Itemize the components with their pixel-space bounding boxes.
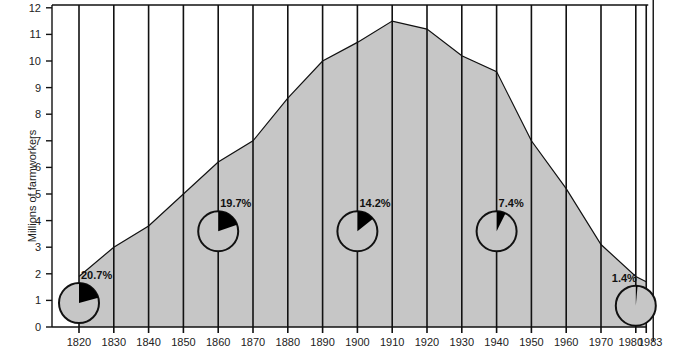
pie-label: 14.2% (359, 197, 390, 209)
x-tick-label-1970: 1970 (589, 336, 613, 348)
x-tick-label-1860: 1860 (206, 336, 230, 348)
x-tick-label-1820: 1820 (67, 336, 91, 348)
x-tick-label-1910: 1910 (380, 336, 404, 348)
x-tick-label-1850: 1850 (171, 336, 195, 348)
area-polygon (79, 21, 646, 327)
x-tick-label-1870: 1870 (241, 336, 265, 348)
pie-label: 20.7% (81, 269, 112, 281)
area-fill (79, 21, 646, 327)
x-tick-label-1940: 1940 (484, 336, 508, 348)
y-tick-label-12: 12 (29, 2, 41, 14)
pie-circle (477, 211, 517, 251)
y-tick-label-11: 11 (30, 28, 41, 40)
x-tick-label-1950: 1950 (519, 336, 543, 348)
y-tick-label-8: 8 (35, 108, 41, 120)
y-axis-label: Millions of farmworkers (26, 129, 38, 242)
x-tick-label-1890: 1890 (310, 336, 334, 348)
farmworkers-chart: 0123456789101112 18201830184018501860187… (0, 0, 679, 349)
y-tick-label-10: 10 (29, 55, 41, 67)
x-tick-label-1900: 1900 (345, 336, 369, 348)
x-tick-label-1960: 1960 (554, 336, 578, 348)
x-tick-label-1930: 1930 (450, 336, 474, 348)
x-tick-label-1983: 1983 (638, 336, 662, 348)
x-tick-label-1920: 1920 (415, 336, 439, 348)
x-tick-label-1830: 1830 (102, 336, 126, 348)
pie-label: 7.4% (499, 197, 524, 209)
pie-label: 19.7% (220, 197, 251, 209)
x-tick-label-1840: 1840 (136, 336, 160, 348)
y-tick-label-9: 9 (35, 82, 41, 94)
x-tick-label-1880: 1880 (276, 336, 300, 348)
y-tick-label-2: 2 (35, 268, 41, 280)
y-tick-label-0: 0 (35, 321, 41, 333)
y-tick-label-1: 1 (35, 294, 41, 306)
x-axis: 1820183018401850186018701880189019001910… (67, 336, 663, 348)
pie-label: 1.4% (612, 272, 637, 284)
